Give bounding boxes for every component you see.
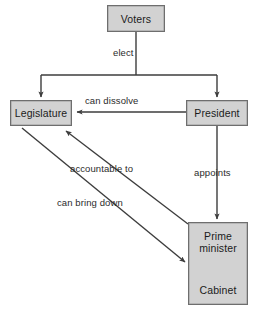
node-legislature[interactable]: Legislature [10, 100, 72, 126]
node-prime-minister-label-line2: minister [199, 242, 237, 254]
node-voters-label: Voters [121, 13, 151, 25]
edge-label-accountable-to: accountable to [70, 163, 133, 174]
edge-label-elect: elect [113, 47, 134, 58]
edge-label-can-dissolve: can dissolve [85, 95, 138, 106]
node-prime-minister-label: Prime minister [189, 230, 247, 254]
node-prime-minister-cabinet[interactable]: Prime minister Cabinet [188, 222, 248, 305]
edge-voters-elect [41, 32, 217, 97]
edge-pm-accountable-to [66, 131, 188, 224]
node-president[interactable]: President [186, 100, 248, 126]
node-legislature-label: Legislature [15, 107, 67, 119]
edge-label-can-bring-down: can bring down [57, 197, 123, 208]
node-president-label: President [194, 107, 239, 119]
node-voters[interactable]: Voters [107, 5, 165, 32]
edge-label-appoints: appoints [194, 167, 231, 178]
diagram-canvas: Voters Legislature President Prime minis… [0, 0, 255, 322]
node-cabinet-label: Cabinet [189, 284, 247, 296]
node-prime-minister-label-line1: Prime [204, 230, 232, 242]
edge-legislature-can-bring-down [22, 128, 185, 262]
